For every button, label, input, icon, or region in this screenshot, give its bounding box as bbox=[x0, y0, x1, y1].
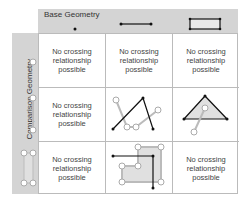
line-icon bbox=[120, 23, 153, 26]
polygon-icon bbox=[21, 150, 36, 186]
line-icon bbox=[30, 95, 36, 133]
geometry-illustrations bbox=[0, 0, 250, 201]
point-icon bbox=[30, 59, 36, 65]
point-icon bbox=[74, 28, 77, 31]
polygon-icon bbox=[189, 18, 222, 31]
